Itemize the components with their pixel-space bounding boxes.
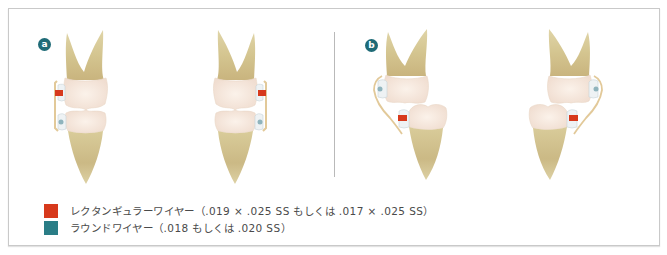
lower-crown (65, 110, 106, 133)
wire (263, 81, 266, 131)
panel-label-a: a (38, 38, 51, 51)
panel-label-b: b (365, 39, 378, 52)
lower-root (218, 131, 253, 184)
lower-root (409, 127, 443, 180)
round-wire-swatch (44, 221, 58, 235)
legend: レクタンギュラーワイヤー（.019 × .025 SS もしくは .017 × … (44, 202, 434, 236)
upper-root (217, 30, 255, 80)
round-wire-slot (594, 87, 599, 92)
panel-b-tooth-pair-left (374, 29, 447, 180)
upper-root (66, 30, 104, 80)
round-wire-slot (258, 120, 263, 125)
rectangular-wire-slot (569, 115, 578, 121)
upper-root (549, 29, 590, 76)
lower-root (533, 127, 567, 180)
upper-crown (64, 78, 108, 110)
lower-crown (407, 104, 447, 129)
round-wire-slot (59, 120, 64, 125)
round-wire-slot (378, 87, 383, 92)
rectangular-wire-slot (55, 90, 63, 96)
upper-root (386, 29, 427, 76)
legend-label: レクタンギュラーワイヤー（.019 × .025 SS もしくは .017 × … (70, 203, 434, 218)
upper-crown (384, 75, 429, 103)
lower-crown (215, 110, 256, 133)
rectangular-wire-slot (258, 90, 266, 96)
upper-crown (548, 75, 593, 103)
panel-divider (334, 32, 335, 177)
rectangular-wire-swatch (44, 204, 58, 218)
upper-crown (213, 78, 257, 110)
rectangular-wire-slot (398, 115, 407, 121)
legend-item-rectangular-wire: レクタンギュラーワイヤー（.019 × .025 SS もしくは .017 × … (44, 202, 434, 219)
lower-crown (529, 104, 569, 129)
panel-a-tooth-pair-right (213, 30, 266, 184)
legend-label: ラウンドワイヤー（.018 もしくは .020 SS） (70, 220, 291, 235)
lower-root (68, 131, 103, 184)
legend-item-round-wire: ラウンドワイヤー（.018 もしくは .020 SS） (44, 219, 434, 236)
panel-a-tooth-pair-left (55, 30, 108, 184)
panel-b-tooth-pair-right (529, 29, 602, 180)
wire (55, 81, 58, 131)
